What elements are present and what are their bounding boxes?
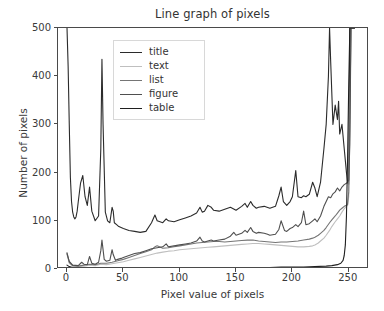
legend-swatch-text: [120, 66, 142, 67]
x-tick-mark: [66, 268, 67, 272]
x-tick-mark: [179, 268, 180, 272]
chart-title: Line graph of pixels: [57, 7, 368, 21]
legend-item-table: table: [114, 101, 204, 115]
legend: titletextlistfiguretable: [113, 40, 205, 120]
legend-item-text: text: [114, 59, 204, 73]
plot-area: [57, 27, 368, 268]
y-tick-label: 0: [11, 263, 51, 274]
legend-label: text: [149, 61, 169, 71]
legend-item-figure: figure: [114, 87, 204, 101]
x-tick-mark: [235, 268, 236, 272]
x-tick-label: 100: [159, 272, 199, 283]
y-axis-label: Number of pixels: [17, 83, 29, 223]
series-line-title: [67, 28, 354, 232]
y-tick-label: 100: [11, 214, 51, 225]
x-tick-label: 250: [328, 272, 368, 283]
y-tick-mark: [54, 75, 58, 76]
legend-label: title: [149, 47, 169, 57]
x-tick-label: 50: [102, 272, 142, 283]
x-tick-label: 0: [46, 272, 86, 283]
legend-swatch-title: [120, 52, 142, 53]
y-tick-mark: [54, 268, 58, 269]
legend-label: figure: [149, 89, 178, 99]
x-tick-label: 200: [271, 272, 311, 283]
y-tick-label: 500: [11, 22, 51, 33]
y-tick-label: 300: [11, 118, 51, 129]
x-axis-label: Pixel value of pixels: [57, 288, 368, 300]
legend-label: list: [149, 75, 164, 85]
y-tick-mark: [54, 172, 58, 173]
series-lines: [58, 28, 368, 268]
y-tick-label: 200: [11, 166, 51, 177]
legend-swatch-list: [120, 80, 142, 81]
y-tick-label: 400: [11, 70, 51, 81]
series-line-figure: [67, 28, 354, 266]
x-tick-mark: [291, 268, 292, 272]
series-line-text: [67, 28, 354, 267]
x-tick-label: 150: [215, 272, 255, 283]
series-line-list: [67, 28, 354, 266]
legend-item-title: title: [114, 45, 204, 59]
y-tick-mark: [54, 220, 58, 221]
legend-swatch-figure: [120, 94, 142, 95]
figure-canvas: Line graph of pixels Number of pixels Pi…: [0, 0, 384, 311]
series-line-table: [67, 28, 354, 268]
legend-swatch-table: [120, 108, 142, 109]
y-tick-mark: [54, 27, 58, 28]
x-tick-mark: [348, 268, 349, 272]
legend-label: table: [149, 103, 174, 113]
x-tick-mark: [122, 268, 123, 272]
y-tick-mark: [54, 123, 58, 124]
legend-item-list: list: [114, 73, 204, 87]
